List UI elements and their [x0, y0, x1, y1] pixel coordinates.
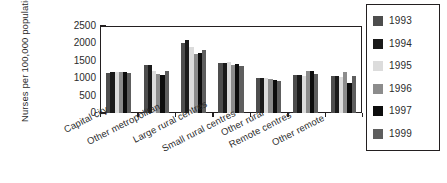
legend-swatch-icon — [373, 39, 383, 49]
legend-swatch-icon — [373, 129, 383, 139]
legend-swatch-icon — [373, 16, 383, 26]
legend-item-label: 1995 — [389, 61, 412, 71]
y-axis-title-line-2: 100,000 population — [19, 0, 30, 73]
bar — [127, 73, 131, 113]
bar-group — [100, 26, 137, 113]
legend-item: 1995 — [373, 55, 439, 78]
bar — [352, 76, 356, 113]
y-axis-tick-label: 500 — [79, 90, 96, 102]
bars-layer — [100, 26, 362, 113]
legend-item-label: 1994 — [389, 39, 412, 49]
bar — [277, 81, 281, 113]
legend: 199319941995199619971999 — [366, 4, 440, 151]
bar — [165, 71, 169, 113]
legend-item-label: 1997 — [389, 106, 412, 116]
y-axis: 25002000150010005000 — [54, 20, 106, 120]
legend-item: 1996 — [373, 78, 439, 101]
legend-item-label: 1996 — [389, 84, 412, 94]
bar-group — [287, 26, 324, 113]
y-axis-tick-label: 2000 — [74, 37, 96, 49]
legend-item: 1993 — [373, 10, 439, 33]
y-axis-title: Nurses per 100,000 population — [2, 0, 46, 116]
y-axis-tick-label: 2500 — [74, 20, 96, 32]
legend-item: 1994 — [373, 33, 439, 56]
legend-swatch-icon — [373, 61, 383, 71]
bar-group — [250, 26, 287, 113]
y-axis-tick-label: 1500 — [74, 55, 96, 67]
bar-group — [175, 26, 212, 113]
legend-item-label: 1999 — [389, 129, 412, 139]
bar — [239, 66, 243, 113]
legend-item-label: 1993 — [389, 16, 412, 26]
bar — [314, 74, 318, 113]
legend-item: 1999 — [373, 123, 439, 146]
legend-swatch-icon — [373, 84, 383, 94]
bar-group — [212, 26, 249, 113]
legend-item: 1997 — [373, 100, 439, 123]
x-axis-labels: Capital cityOther metropolitanLarge rura… — [0, 113, 370, 183]
grouped-bar-chart: Nurses per 100,000 population 2500200015… — [0, 0, 447, 183]
y-axis-tick-label: 1000 — [74, 72, 96, 84]
bar-group — [325, 26, 362, 113]
legend-swatch-icon — [373, 106, 383, 116]
